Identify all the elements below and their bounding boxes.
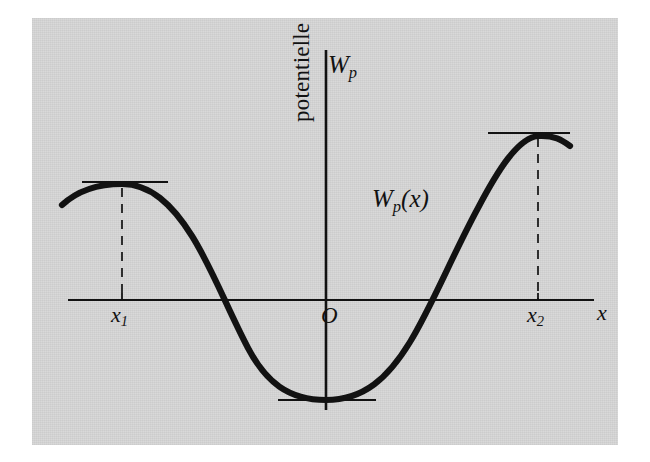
x-tick-x2-subscript: 2: [537, 313, 544, 329]
plot-panel: Wp potentielle Energie O x1 x2 x Wp(x): [32, 18, 618, 445]
y-axis-symbol-letter: W: [328, 51, 349, 78]
x-tick-label-x1: x1: [111, 304, 128, 329]
origin-label: O: [321, 304, 338, 327]
potential-energy-curve: [62, 136, 570, 400]
curve-label-letter: W: [372, 185, 393, 212]
curve-label-subscript: p: [393, 197, 401, 216]
x-tick-x1-subscript: 1: [121, 313, 128, 329]
x-tick-x1-letter: x: [111, 302, 121, 327]
y-axis-symbol-label: Wp: [328, 52, 357, 81]
y-axis-name-label: potentielle Energie: [290, 18, 313, 122]
y-axis-symbol-subscript: p: [349, 63, 357, 82]
curve-label-argument: (x): [401, 185, 429, 212]
potential-energy-plot: [32, 18, 618, 445]
figure-root: Wp potentielle Energie O x1 x2 x Wp(x): [0, 0, 650, 462]
x-tick-x2-letter: x: [527, 302, 537, 327]
curve-label: Wp(x): [372, 186, 429, 215]
x-tick-label-x2: x2: [527, 304, 544, 329]
x-axis-symbol-label: x: [597, 302, 607, 324]
